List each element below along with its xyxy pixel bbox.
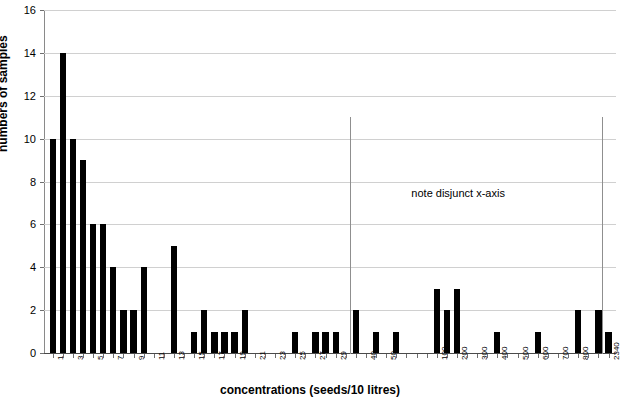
bar [231,332,237,353]
axis-break-line [602,117,603,354]
x-axis-tick-mark [103,354,104,358]
bar [312,332,318,353]
x-axis-tick-mark [326,354,327,358]
bar [90,224,96,353]
bar [605,332,611,353]
gridline [44,182,616,183]
x-axis-tick-mark [497,354,498,358]
x-axis-tick-mark [558,354,559,358]
x-axis-tick-mark [376,354,377,358]
y-axis-tick-mark [40,267,44,268]
x-axis-tick-mark [346,354,347,358]
x-axis-tick-mark [265,354,266,358]
x-axis-tick-label: 2340 [612,342,620,360]
y-axis-tick-mark [40,53,44,54]
bar [120,310,126,353]
disjunct-axis-annotation: note disjunct x-axis [411,187,505,199]
bar [221,332,227,353]
y-axis-tick-mark [40,139,44,140]
x-axis-tick-mark [477,354,478,358]
x-axis-tick-mark [386,354,387,358]
x-axis-tick-mark [245,354,246,358]
chart-root: 0246810121416 13579111315171921232527294… [0,0,620,401]
x-axis-tick-mark [447,354,448,358]
bar [454,289,460,353]
x-axis-tick-mark [568,354,569,358]
x-axis-tick-mark [457,354,458,358]
x-axis-tick-mark [406,354,407,358]
bar [242,310,248,353]
bar [333,332,339,353]
x-axis-tick-mark [588,354,589,358]
plot-area: 0246810121416 13579111315171921232527294… [44,10,616,354]
x-axis-tick-mark [356,354,357,358]
x-axis-tick-mark [487,354,488,358]
y-axis-tick-mark [40,10,44,11]
x-axis-tick-mark [83,354,84,358]
x-axis-tick-mark [63,354,64,358]
bar [171,246,177,353]
x-axis-tick-mark [366,354,367,358]
y-axis-title: numbers of samples [0,35,10,152]
x-axis-tick-mark [224,354,225,358]
bar [141,267,147,353]
x-axis-tick-mark [123,354,124,358]
x-axis-tick-mark [538,354,539,358]
x-axis-tick-mark [427,354,428,358]
x-axis-tick-mark [467,354,468,358]
gridline [44,53,616,54]
gridline [44,139,616,140]
x-axis-tick-mark [53,354,54,358]
bar [60,53,66,353]
x-axis-tick-mark [305,354,306,358]
bar [353,310,359,353]
bar [80,160,86,353]
y-axis-tick-label: 2 [0,304,36,316]
bar [595,310,601,353]
x-axis-tick-mark [275,354,276,358]
y-axis-tick-mark [40,310,44,311]
x-axis-tick-mark [528,354,529,358]
bar [211,332,217,353]
y-axis-tick-label: 0 [0,347,36,359]
bar [373,332,379,353]
x-axis-tick-mark [396,354,397,358]
x-axis-tick-mark [164,354,165,358]
x-axis-tick-mark [518,354,519,358]
x-axis-tick-mark [285,354,286,358]
bar [434,289,440,353]
x-axis-tick-mark [255,354,256,358]
bar [201,310,207,353]
x-axis-tick-mark [184,354,185,358]
y-axis-tick-mark [40,96,44,97]
bar [100,224,106,353]
x-axis-tick-mark [113,354,114,358]
bar [292,332,298,353]
x-axis-tick-mark [598,354,599,358]
bar [70,139,76,353]
gridline [44,96,616,97]
x-axis-tick-mark [214,354,215,358]
y-axis-tick-label: 8 [0,176,36,188]
x-axis-tick-mark [235,354,236,358]
bar [50,139,56,353]
gridline [44,10,616,11]
gridline [44,224,616,225]
bar [110,267,116,353]
bar [322,332,328,353]
y-axis-tick-mark [40,224,44,225]
x-axis-line [44,353,616,354]
axis-break-line [350,117,351,354]
x-axis-tick-mark [437,354,438,358]
x-axis-tick-mark [507,354,508,358]
bar [191,332,197,353]
x-axis-title: concentrations (seeds/10 litres) [0,383,620,397]
x-axis-tick-mark [609,354,610,358]
x-axis-tick-mark [336,354,337,358]
y-axis-tick-mark [40,353,44,354]
x-axis-tick-mark [134,354,135,358]
bar [393,332,399,353]
bar [535,332,541,353]
x-axis-tick-mark [194,354,195,358]
x-axis-tick-mark [548,354,549,358]
